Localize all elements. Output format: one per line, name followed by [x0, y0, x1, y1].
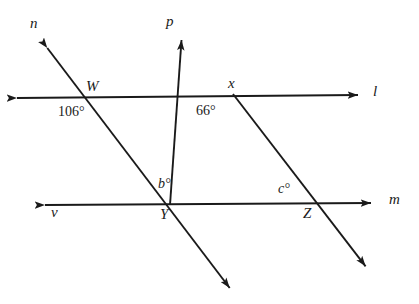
line-n [47, 48, 229, 288]
label-angle-c: c° [278, 182, 290, 196]
line-m [45, 203, 371, 205]
label-point-z: Z [303, 206, 311, 221]
geometry-diagram: n p l m v W x Y Z 106° 66° b° c° [0, 0, 419, 304]
label-point-y: Y [160, 207, 168, 222]
label-line-l: l [373, 84, 377, 99]
geometry-canvas [0, 0, 419, 304]
label-line-p: p [166, 14, 174, 29]
label-line-n: n [30, 16, 38, 31]
line-p [170, 40, 182, 205]
label-angle-w: 106° [58, 105, 85, 119]
label-angle-b: b° [158, 177, 171, 191]
label-point-x: x [228, 76, 235, 91]
label-point-w: W [86, 79, 99, 94]
line-l [17, 95, 358, 98]
label-angle-x: 66° [196, 104, 216, 118]
label-line-v: v [51, 205, 58, 220]
line-xz [233, 94, 366, 266]
label-line-m: m [389, 192, 400, 207]
